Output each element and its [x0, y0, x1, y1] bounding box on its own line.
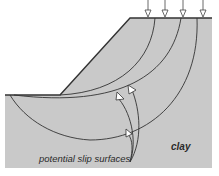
surface-load-arrows: [145, 0, 206, 17]
load-arrow-icon: [180, 10, 186, 17]
material-label: clay: [171, 141, 190, 152]
load-arrow-icon: [200, 10, 206, 17]
load-arrow-icon: [145, 10, 151, 17]
load-arrow-icon: [162, 10, 168, 17]
slip-surfaces-label: potential slip surfaces: [39, 153, 130, 164]
slope-stability-diagram: clay potential slip surfaces: [0, 0, 219, 176]
